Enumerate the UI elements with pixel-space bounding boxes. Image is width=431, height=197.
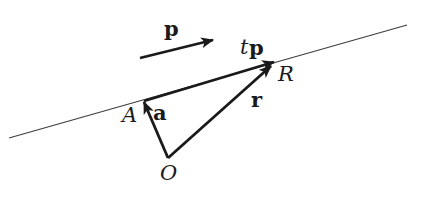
label-point-R: R: [277, 62, 294, 86]
label-vector-a: a: [153, 100, 167, 125]
label-vector-p: p: [164, 16, 179, 41]
vector-line-diagram-canvas: p t p R A a r O: [0, 0, 431, 197]
label-vector-r: r: [251, 87, 263, 112]
label-scaled-vector-p: p: [249, 35, 264, 60]
label-scalar-t: t: [240, 35, 249, 59]
vector-line-diagram: p t p R A a r O: [0, 0, 431, 197]
label-origin-O: O: [160, 161, 177, 185]
vector-p-arrow: [140, 40, 213, 58]
label-point-A: A: [120, 103, 137, 127]
